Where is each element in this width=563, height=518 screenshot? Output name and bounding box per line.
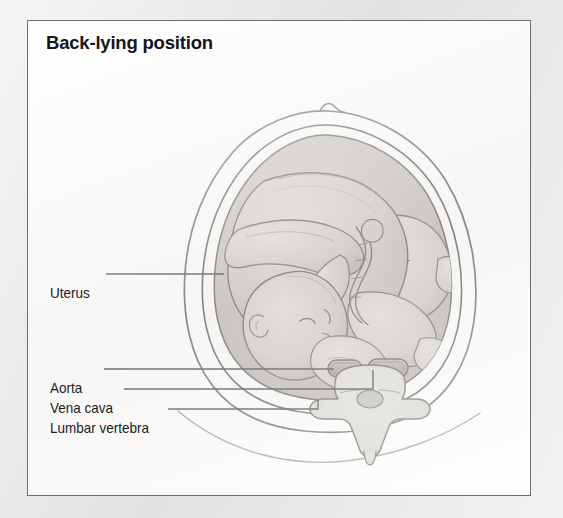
- label-uterus: Uterus: [50, 285, 90, 301]
- label-aorta: Aorta: [50, 380, 82, 396]
- figure-panel: Back-lying position Uterus Aorta Vena ca…: [27, 20, 531, 496]
- label-vena-cava: Vena cava: [50, 400, 113, 416]
- figure-title: Back-lying position: [46, 32, 213, 54]
- label-lumbar-vertebra: Lumbar vertebra: [50, 420, 149, 436]
